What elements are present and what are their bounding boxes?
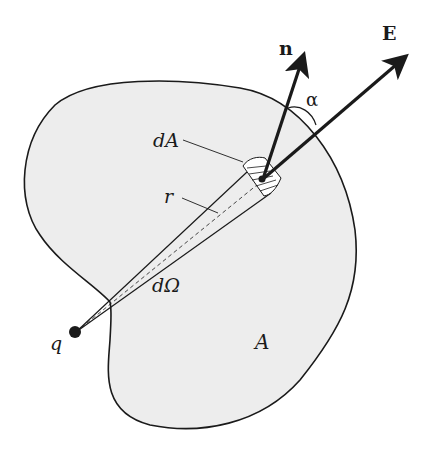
- area-element-label: dA: [153, 129, 179, 151]
- area-element-center-dot: [259, 176, 266, 183]
- closed-surface: [24, 81, 356, 429]
- solid-angle-label: dΩ: [152, 274, 180, 296]
- gauss-flux-diagram: n E α dA r dΩ A q: [0, 0, 428, 462]
- surface-label: A: [253, 330, 269, 354]
- angle-label: α: [306, 89, 318, 110]
- normal-label: n: [279, 37, 293, 59]
- charge-label: q: [50, 332, 62, 354]
- point-charge-dot: [69, 326, 81, 338]
- field-label: E: [382, 22, 396, 44]
